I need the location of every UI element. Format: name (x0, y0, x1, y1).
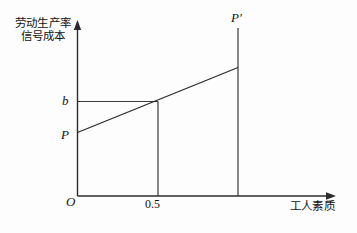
label-p-prime: P′ (231, 11, 242, 26)
y-axis-title-line1: 劳动生产率 (15, 16, 71, 30)
label-p: P (61, 128, 69, 143)
label-origin: O (66, 195, 75, 210)
y-axis-title-line2: 信号成本 (6, 30, 80, 43)
y-axis-title: 劳动生产率 信号成本 (6, 17, 80, 43)
x-tick-label-0-5: 0.5 (145, 198, 160, 212)
x-axis-title: 工人素质 (290, 200, 335, 213)
label-b: b (62, 94, 69, 109)
economics-line-diagram: 劳动生产率 信号成本 工人素质 b P P′ O 0.5 (0, 0, 357, 233)
